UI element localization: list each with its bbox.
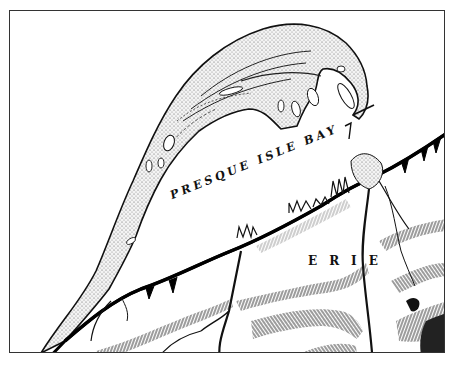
map-artwork — [9, 10, 445, 353]
map-frame: PRESQUE ISLE BAY ERIE — [9, 10, 445, 353]
city-label: ERIE — [308, 254, 390, 268]
